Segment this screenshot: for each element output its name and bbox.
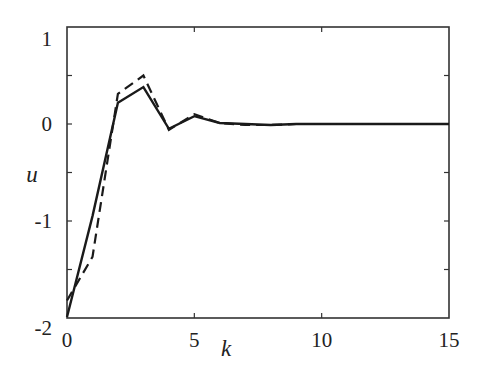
y-tick-label: 1 bbox=[42, 27, 53, 51]
y-tick-label: 0 bbox=[42, 112, 53, 136]
x-axis-label: k bbox=[221, 336, 232, 361]
y-axis-label: u bbox=[26, 162, 38, 187]
axis-ticks bbox=[67, 27, 449, 318]
series-group bbox=[67, 76, 449, 318]
x-tick-label: 5 bbox=[189, 328, 200, 352]
chart: 051015-2-101 k u bbox=[0, 0, 479, 376]
series-line-dashed bbox=[67, 76, 449, 301]
y-tick-label: -2 bbox=[35, 316, 53, 340]
y-tick-label: -1 bbox=[35, 209, 53, 233]
series-line-solid bbox=[67, 87, 449, 317]
plot-frame bbox=[67, 27, 449, 318]
x-tick-label: 15 bbox=[439, 328, 460, 352]
x-tick-label: 10 bbox=[311, 328, 332, 352]
x-tick-label: 0 bbox=[62, 328, 73, 352]
